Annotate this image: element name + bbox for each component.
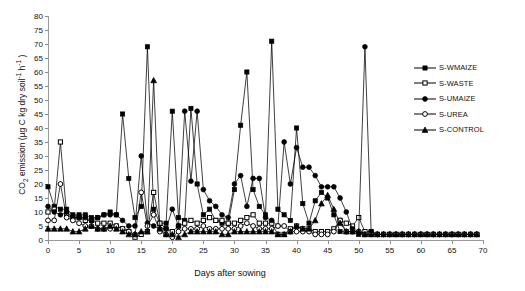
- data-point-open-circle: [58, 182, 63, 187]
- data-point-filled-square: [195, 182, 199, 186]
- data-point-filled-square: [239, 123, 243, 127]
- data-point-filled-circle: [294, 145, 299, 150]
- data-point-filled-circle: [126, 224, 131, 229]
- data-point-open-circle: [325, 232, 330, 237]
- data-point-filled-circle: [319, 184, 324, 189]
- data-point-filled-circle: [77, 215, 82, 220]
- data-point-filled-circle: [83, 215, 88, 220]
- data-point-open-square: [226, 221, 230, 225]
- data-point-filled-circle: [325, 184, 330, 189]
- data-point-filled-circle: [423, 96, 428, 101]
- data-point-filled-circle: [307, 165, 312, 170]
- legend-item-s-wmaize[interactable]: S-WMAIZE: [413, 60, 484, 76]
- data-point-filled-square: [288, 218, 292, 222]
- data-point-open-circle: [77, 221, 82, 226]
- legend-item-s-control[interactable]: S-CONTROL: [413, 122, 484, 138]
- data-point-open-square: [96, 221, 100, 225]
- data-point-open-circle: [423, 112, 428, 117]
- data-point-open-square: [189, 218, 193, 222]
- data-point-filled-square: [251, 188, 255, 192]
- data-point-open-square: [195, 221, 199, 225]
- data-point-filled-square: [207, 207, 211, 211]
- legend-item-label: S-WMAIZE: [439, 63, 477, 72]
- data-point-filled-square: [307, 221, 311, 225]
- data-point-open-square: [207, 216, 211, 220]
- data-point-filled-circle: [108, 212, 113, 217]
- data-point-filled-circle: [164, 226, 169, 231]
- data-point-open-square: [102, 221, 106, 225]
- data-point-filled-square: [423, 66, 427, 70]
- data-point-filled-circle: [263, 215, 268, 220]
- data-point-open-circle: [64, 215, 69, 220]
- data-point-open-circle: [331, 229, 336, 234]
- data-point-filled-circle: [46, 204, 51, 209]
- data-point-filled-circle: [176, 224, 181, 229]
- data-point-filled-square: [189, 106, 193, 110]
- data-point-open-circle: [201, 224, 206, 229]
- data-point-filled-triangle: [176, 234, 182, 239]
- data-point-filled-square: [338, 230, 342, 234]
- data-point-open-square: [239, 218, 243, 222]
- series-canvas: [0, 0, 525, 291]
- data-point-filled-square: [270, 39, 274, 43]
- legend-item-s-urea[interactable]: S-UREA: [413, 107, 484, 123]
- data-point-filled-circle: [257, 176, 262, 181]
- data-point-open-circle: [282, 224, 287, 229]
- data-point-open-circle: [313, 232, 318, 237]
- legend-marker-filled-square-icon: [413, 62, 439, 74]
- data-point-filled-circle: [120, 218, 125, 223]
- data-point-open-circle: [139, 190, 144, 195]
- data-point-filled-circle: [344, 210, 349, 215]
- data-point-filled-triangle: [151, 77, 157, 82]
- chart-figure: CO2 emission (µg C kg dry soil-1 h-1 ) 0…: [0, 0, 525, 291]
- data-point-open-circle: [238, 224, 243, 229]
- data-point-filled-circle: [213, 204, 218, 209]
- data-point-open-circle: [52, 218, 57, 223]
- data-point-filled-circle: [89, 218, 94, 223]
- data-point-open-square: [58, 140, 62, 144]
- data-point-filled-circle: [151, 224, 156, 229]
- data-point-filled-circle: [313, 173, 318, 178]
- data-point-open-square: [183, 221, 187, 225]
- data-point-filled-square: [245, 70, 249, 74]
- data-point-filled-square: [145, 45, 149, 49]
- legend-item-label: S-WASTE: [439, 79, 474, 88]
- data-point-filled-circle: [300, 165, 305, 170]
- data-point-filled-circle: [331, 184, 336, 189]
- data-point-open-square: [357, 216, 361, 220]
- data-point-open-square: [214, 218, 218, 222]
- data-point-filled-circle: [207, 198, 212, 203]
- data-point-filled-square: [139, 204, 143, 208]
- data-point-filled-circle: [238, 173, 243, 178]
- data-point-open-square: [232, 221, 236, 225]
- data-point-open-circle: [244, 221, 249, 226]
- data-point-open-square: [263, 221, 267, 225]
- data-point-open-square: [46, 210, 50, 214]
- data-point-open-circle: [176, 229, 181, 234]
- data-point-filled-circle: [58, 212, 63, 217]
- data-point-filled-circle: [102, 212, 107, 217]
- legend-item-s-umaize[interactable]: S-UMAIZE: [413, 91, 484, 107]
- data-point-filled-square: [201, 213, 205, 217]
- data-point-filled-circle: [95, 215, 100, 220]
- data-point-filled-circle: [244, 204, 249, 209]
- legend-marker-filled-circle-icon: [413, 93, 439, 105]
- legend-item-s-waste[interactable]: S-WASTE: [413, 76, 484, 92]
- legend-marker-open-circle-icon: [413, 108, 439, 120]
- legend-marker-open-square-icon: [413, 77, 439, 89]
- data-point-filled-square: [301, 202, 305, 206]
- data-point-filled-circle: [195, 109, 200, 114]
- data-point-filled-circle: [269, 218, 274, 223]
- data-point-filled-circle: [363, 44, 368, 49]
- data-point-open-square: [245, 216, 249, 220]
- data-point-filled-circle: [201, 187, 206, 192]
- data-point-filled-triangle: [312, 217, 318, 222]
- data-point-filled-square: [319, 190, 323, 194]
- legend-item-label: S-CONTROL: [439, 125, 484, 134]
- data-point-filled-square: [120, 112, 124, 116]
- data-point-filled-circle: [189, 179, 194, 184]
- data-point-filled-circle: [182, 109, 187, 114]
- data-point-filled-triangle: [182, 231, 188, 236]
- data-point-filled-square: [313, 199, 317, 203]
- data-point-filled-square: [282, 213, 286, 217]
